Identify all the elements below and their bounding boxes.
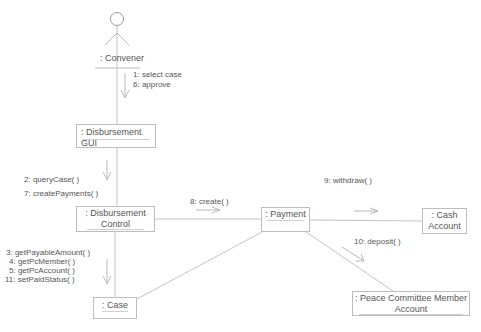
object-cash-account[interactable]: : Cash Account [422, 208, 467, 234]
name-underline [359, 314, 463, 315]
object-case[interactable]: : Case [93, 297, 137, 319]
object-payment[interactable]: : Payment [261, 207, 310, 232]
object-name-line1: : Cash [423, 210, 466, 221]
object-name: : Payment [262, 209, 309, 220]
message-withdraw: 9: withdraw( ) [324, 176, 372, 186]
message-select-case: 1: select case [133, 70, 182, 80]
name-underline [87, 229, 144, 230]
name-underline [82, 139, 150, 140]
object-name-line1: : Peace Committee Member [353, 293, 469, 304]
object-name-line1: : Disbursement [77, 208, 154, 219]
object-name-line2: Account [423, 221, 466, 232]
actor-convener-label: : Convener [100, 53, 144, 63]
object-name: : Case [94, 300, 136, 311]
message-set-paid-status: 11: setPaidStatus( ) [5, 275, 75, 285]
message-create: 8: create( ) [190, 197, 229, 207]
object-name: : Disbursement GUI [77, 127, 155, 149]
object-peace-committee-member-account[interactable]: : Peace Committee Member Account [352, 291, 470, 316]
name-underline [267, 220, 304, 221]
message-query-case: 2: queryCase( ) [24, 175, 79, 185]
message-approve: 6: approve [133, 80, 171, 90]
name-underline [102, 311, 128, 312]
message-deposit: 10: deposit( ) [354, 237, 401, 247]
object-disbursement-control[interactable]: : Disbursement Control [76, 206, 155, 232]
message-create-payments: 7: createPayments( ) [24, 189, 98, 199]
object-disbursement-gui[interactable]: : Disbursement GUI [76, 124, 156, 148]
actor-head-icon [111, 13, 124, 26]
